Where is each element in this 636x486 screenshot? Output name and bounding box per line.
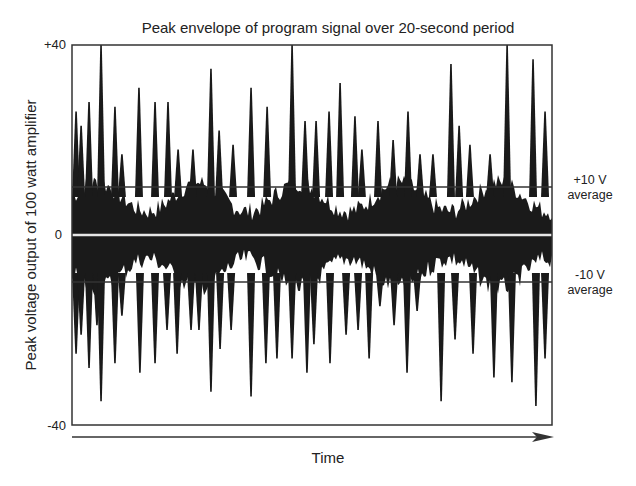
- envelope-plot: [0, 0, 636, 486]
- envelope-area: [72, 45, 552, 406]
- x-axis-label: Time: [0, 449, 636, 466]
